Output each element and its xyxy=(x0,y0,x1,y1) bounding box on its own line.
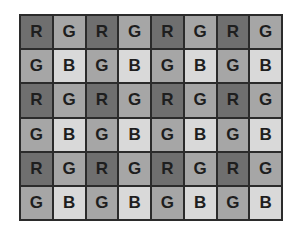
filter-cell-g: G xyxy=(185,16,216,48)
filter-cell-r: R xyxy=(152,153,183,185)
filter-cell-g: G xyxy=(54,153,85,185)
filter-cell-g: G xyxy=(87,119,118,151)
filter-cell-r: R xyxy=(218,153,249,185)
filter-cell-g: G xyxy=(21,119,52,151)
filter-cell-r: R xyxy=(21,153,52,185)
filter-cell-g: G xyxy=(152,187,183,219)
filter-cell-b: B xyxy=(54,119,85,151)
filter-cell-g: G xyxy=(218,119,249,151)
filter-cell-g: G xyxy=(119,153,150,185)
filter-cell-g: G xyxy=(218,50,249,82)
filter-cell-g: G xyxy=(54,16,85,48)
filter-cell-g: G xyxy=(21,50,52,82)
filter-cell-b: B xyxy=(185,50,216,82)
bayer-grid: RGRGRGRGGBGBGBGBRGRGRGRGGBGBGBGBRGRGRGRG… xyxy=(19,14,283,221)
filter-cell-r: R xyxy=(87,16,118,48)
filter-cell-b: B xyxy=(185,187,216,219)
filter-cell-b: B xyxy=(54,187,85,219)
filter-cell-r: R xyxy=(152,16,183,48)
filter-cell-g: G xyxy=(119,16,150,48)
filter-cell-r: R xyxy=(87,153,118,185)
filter-cell-r: R xyxy=(152,84,183,116)
filter-cell-r: R xyxy=(218,16,249,48)
filter-cell-b: B xyxy=(250,187,281,219)
filter-cell-b: B xyxy=(185,119,216,151)
filter-cell-b: B xyxy=(54,50,85,82)
filter-cell-r: R xyxy=(21,84,52,116)
filter-cell-r: R xyxy=(218,84,249,116)
filter-cell-g: G xyxy=(185,84,216,116)
filter-cell-g: G xyxy=(250,153,281,185)
filter-cell-g: G xyxy=(87,50,118,82)
filter-cell-g: G xyxy=(21,187,52,219)
filter-cell-g: G xyxy=(152,119,183,151)
filter-cell-g: G xyxy=(54,84,85,116)
filter-cell-g: G xyxy=(185,153,216,185)
filter-cell-b: B xyxy=(119,119,150,151)
filter-cell-b: B xyxy=(119,50,150,82)
filter-cell-b: B xyxy=(119,187,150,219)
filter-cell-g: G xyxy=(218,187,249,219)
filter-cell-g: G xyxy=(152,50,183,82)
filter-cell-g: G xyxy=(250,84,281,116)
filter-cell-g: G xyxy=(87,187,118,219)
filter-cell-g: G xyxy=(250,16,281,48)
filter-cell-g: G xyxy=(119,84,150,116)
filter-cell-b: B xyxy=(250,50,281,82)
filter-cell-r: R xyxy=(87,84,118,116)
filter-cell-r: R xyxy=(21,16,52,48)
filter-cell-b: B xyxy=(250,119,281,151)
